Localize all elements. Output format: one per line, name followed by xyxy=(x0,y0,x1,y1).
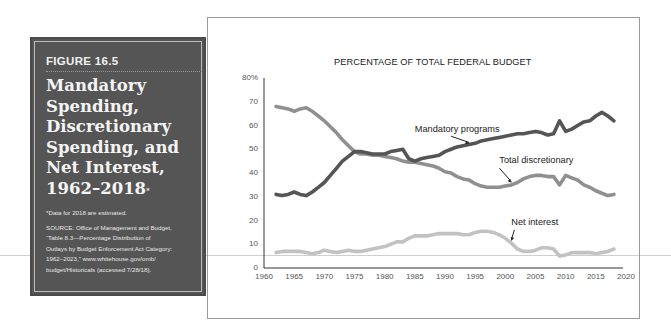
annotation-arrows xyxy=(451,136,514,241)
arrow-head-icon xyxy=(511,237,514,241)
series-annotation: Total discretionary xyxy=(499,155,573,165)
series-annotation: Net interest xyxy=(511,217,558,227)
series-net-interest xyxy=(276,231,614,256)
series-annotation: Mandatory programs xyxy=(415,124,500,134)
